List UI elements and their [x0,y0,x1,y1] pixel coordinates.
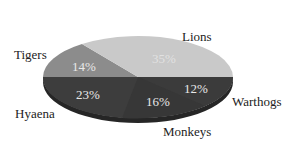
pct-lions: 35% [152,51,176,66]
label-tigers: Tigers [14,47,47,62]
label-hyaena: Hyaena [15,106,55,121]
pct-warthogs: 12% [184,81,208,96]
label-monkeys: Monkeys [163,124,211,139]
label-lions: Lions [182,29,212,44]
pct-tigers: 14% [72,59,96,74]
pct-monkeys: 16% [146,94,170,109]
pct-hyaena: 23% [76,87,100,102]
label-warthogs: Warthogs [232,94,282,109]
pie-chart: 35% 14% 23% 16% 12% Lions Tigers Hyaena … [0,0,299,147]
